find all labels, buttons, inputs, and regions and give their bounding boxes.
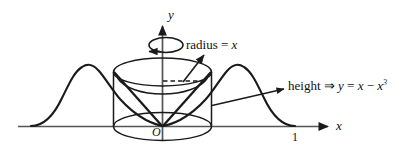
height-annotation-minus: − (363, 78, 377, 93)
origin-label: O (152, 126, 161, 138)
radius-annotation-text: radius = (186, 37, 232, 52)
shell-method-figure: y x O 1 radius = x height ⇒ y = x − x3 (0, 0, 401, 165)
x-axis-label: x (336, 119, 342, 132)
y-axis-label: y (168, 8, 174, 21)
x-tick-label-one: 1 (292, 131, 298, 143)
height-annotation-exponent: 3 (383, 78, 387, 87)
rotation-axis-indicator (149, 38, 183, 53)
radius-annotation: radius = x (186, 38, 237, 51)
height-annotation-text: height ⇒ (288, 78, 338, 93)
height-annotation-equals: = (344, 78, 358, 93)
height-leader-arrow (212, 89, 284, 106)
height-annotation: height ⇒ y = x − x3 (288, 79, 387, 92)
radius-annotation-variable: x (232, 37, 238, 52)
